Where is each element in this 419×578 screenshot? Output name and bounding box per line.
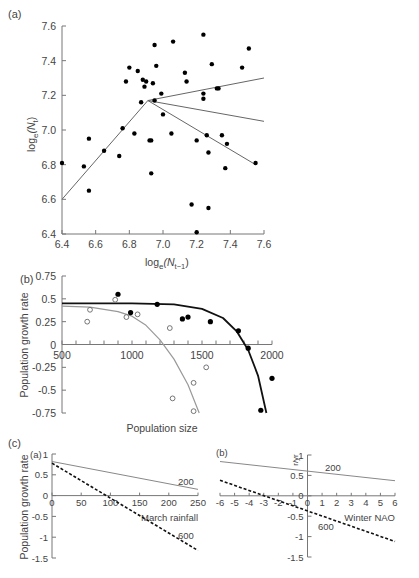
data-point (201, 91, 205, 95)
data-point-open (124, 315, 129, 320)
x-tick-label: 2000 (260, 349, 284, 361)
data-point (194, 138, 198, 142)
data-point (149, 171, 153, 175)
data-point (120, 126, 124, 130)
data-point (154, 64, 158, 68)
data-point (253, 161, 257, 165)
x-tick-label: 6.8 (122, 238, 137, 250)
x-tick-label: 150 (132, 497, 148, 508)
data-point-filled (185, 315, 190, 320)
x-axis-label: loge(Nt−1) (145, 256, 189, 271)
data-point (206, 150, 210, 154)
x-tick-label: 7.0 (156, 238, 171, 250)
x-tick-label: 1000 (120, 349, 144, 361)
x-tick-label: 1500 (190, 349, 214, 361)
fit-line (148, 78, 264, 101)
data-point (216, 86, 220, 90)
x-axis-label: Winter NAO (344, 512, 395, 523)
y-tick-label: 6.8 (41, 159, 56, 171)
y-tick-label: 7.4 (41, 55, 56, 67)
x-tick-label: 6 (392, 497, 397, 508)
data-point (225, 142, 229, 146)
y-tick-label: 7.6 (41, 20, 56, 32)
data-point (205, 133, 209, 137)
data-point-open (88, 307, 93, 312)
y-tick-label: 0.75 (36, 270, 57, 282)
panel-ca-label: (a) (30, 449, 42, 460)
data-point (149, 138, 153, 142)
panel-a: (a)6.46.66.87.07.27.47.66.46.66.87.07.27… (8, 8, 271, 271)
panel-cb-label: (b) (216, 447, 228, 458)
x-tick-label: -6 (216, 497, 224, 508)
data-point-open (170, 396, 175, 401)
x-tick-label: 500 (53, 349, 71, 361)
y-tick-label: 0.5 (290, 470, 303, 481)
data-point (240, 65, 244, 69)
data-point (183, 71, 187, 75)
x-tick-label: 7.4 (223, 238, 238, 250)
data-point-filled (246, 346, 251, 351)
y-tick-label: -1.5 (287, 552, 303, 563)
data-point (132, 131, 136, 135)
data-point-filled (258, 408, 263, 413)
data-point (159, 91, 163, 95)
y-tick-label: -0.25 (32, 361, 56, 373)
y-tick-label: 7.0 (41, 124, 56, 136)
data-point (169, 131, 173, 135)
data-point (161, 112, 165, 116)
data-point (201, 97, 205, 101)
data-point (223, 166, 227, 170)
data-point-open (204, 365, 209, 370)
data-point (152, 98, 156, 102)
data-point-filled (269, 376, 274, 381)
fit-curve (62, 303, 266, 413)
data-point (189, 202, 193, 206)
panel-b-label: (b) (20, 273, 33, 285)
data-point (144, 79, 148, 83)
x-tick-label: 0 (305, 497, 310, 508)
x-tick-label: 100 (102, 497, 118, 508)
data-point-open (167, 326, 172, 331)
line-label-200: 200 (325, 462, 341, 473)
y-tick-label: 0 (298, 490, 303, 501)
data-point (210, 62, 214, 66)
data-point-filled (208, 319, 213, 324)
panel-c-a: (a)10.50-0.5-1-1.5050100150200250March r… (18, 449, 206, 564)
x-tick-label: 1 (319, 497, 324, 508)
y-axis-label: Population growth rate (18, 454, 30, 559)
line-label-600: 600 (178, 530, 194, 541)
y-axis-label: loge(Nt) (25, 117, 40, 152)
data-point (60, 161, 64, 165)
data-point (194, 230, 198, 234)
data-point (201, 32, 205, 36)
y-tick-label: 6.6 (41, 193, 56, 205)
data-point-open (85, 319, 90, 324)
data-point (87, 136, 91, 140)
x-tick-label: 3 (349, 497, 354, 508)
data-point (127, 65, 131, 69)
x-tick-label: -5 (230, 497, 238, 508)
x-tick-label: 4 (363, 497, 368, 508)
y-tick-label: -1 (40, 532, 48, 543)
data-point (136, 69, 140, 73)
x-tick-label: 50 (76, 497, 87, 508)
panel-c-label: (c) (8, 437, 21, 449)
y-tick-label: -1.5 (32, 553, 48, 564)
data-point (139, 100, 143, 104)
data-point (171, 39, 175, 43)
y-tick-label: 7.2 (41, 89, 56, 101)
data-point-open (191, 380, 196, 385)
y-tick-label: -0.5 (38, 384, 56, 396)
data-point (206, 206, 210, 210)
y-tick-label: 1 (43, 449, 48, 460)
y-tick-label: 0 (43, 490, 48, 501)
data-point-filled (236, 328, 241, 333)
y-tick-label: -1 (295, 531, 303, 542)
y-axis-label: Population growth rate (18, 292, 30, 397)
y-axis-label: r/yr (291, 454, 300, 466)
x-tick-label: 6.4 (55, 238, 70, 250)
x-tick-label: 0 (49, 497, 54, 508)
y-tick-label: -0.75 (32, 407, 56, 419)
figure: (a)6.46.66.87.07.27.47.66.46.66.87.07.27… (0, 0, 419, 578)
line-label-200: 200 (178, 476, 194, 487)
